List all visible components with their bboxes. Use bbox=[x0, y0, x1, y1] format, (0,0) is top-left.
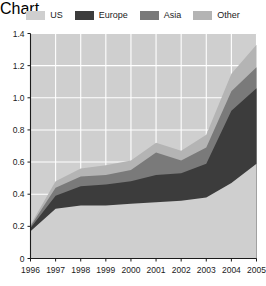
x-tick-label: 2004 bbox=[222, 265, 241, 275]
plot-area-wrapper: 00.20.40.60.81.01.21.4 19961997199819992… bbox=[0, 0, 266, 286]
x-tick-label: 1997 bbox=[46, 265, 65, 275]
y-tick-label: 1.2 bbox=[13, 61, 25, 71]
x-tick-label: 1999 bbox=[96, 265, 115, 275]
y-tick-label: 0.2 bbox=[13, 221, 25, 231]
chart-canvas: 00.20.40.60.81.01.21.4 19961997199819992… bbox=[0, 0, 266, 286]
y-axis-ticks: 00.20.40.60.81.01.21.4 bbox=[13, 29, 31, 264]
x-axis-ticks: 1996199719981999200020012002200320042005 bbox=[21, 259, 266, 275]
y-tick-label: 0 bbox=[20, 254, 25, 264]
x-tick-label: 1998 bbox=[71, 265, 90, 275]
y-tick-label: 1.0 bbox=[13, 93, 25, 103]
y-tick-label: 0.8 bbox=[13, 125, 25, 135]
stacked-area-chart-figure: US Europe Asia Other 00.20.40.60.81.01.2… bbox=[0, 0, 266, 286]
x-tick-label: 2005 bbox=[247, 265, 266, 275]
y-tick-label: 1.4 bbox=[13, 29, 25, 39]
x-tick-label: 1996 bbox=[21, 265, 40, 275]
x-tick-label: 2002 bbox=[172, 265, 191, 275]
x-tick-label: 2003 bbox=[197, 265, 216, 275]
x-tick-label: 2000 bbox=[121, 265, 140, 275]
y-tick-label: 0.4 bbox=[13, 189, 25, 199]
y-tick-label: 0.6 bbox=[13, 157, 25, 167]
x-tick-label: 2001 bbox=[147, 265, 166, 275]
